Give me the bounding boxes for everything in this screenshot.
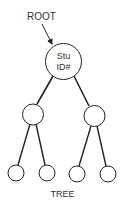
edge-right-rightleaf <box>97 126 106 166</box>
edge-left-leftleaf <box>18 124 30 165</box>
right-child-node <box>84 106 105 127</box>
left-child-node <box>23 104 44 125</box>
root-pointer-arrow <box>42 24 52 44</box>
leaf-node-1 <box>8 165 24 181</box>
tree-diagram: ROOT Stu ID# TREE <box>0 0 140 208</box>
leaf-node-4 <box>100 166 116 182</box>
root-pointer-label: ROOT <box>27 11 56 22</box>
leaf-node-2 <box>39 165 55 181</box>
edge-root-left <box>37 76 53 104</box>
edge-root-right <box>74 76 89 106</box>
edge-right-leftleaf <box>79 126 91 166</box>
edge-left-rightleaf <box>36 124 45 165</box>
leaf-node-3 <box>69 166 85 182</box>
root-node-label-line1: Stu <box>57 51 71 61</box>
diagram-caption: TREE <box>50 189 74 199</box>
root-node-label-line2: ID# <box>56 62 70 72</box>
